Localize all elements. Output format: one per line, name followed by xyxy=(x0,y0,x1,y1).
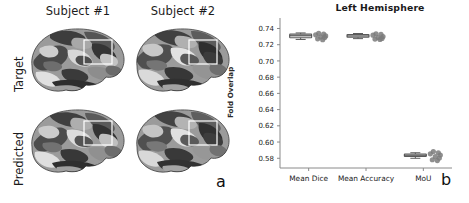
brain-surface-icon xyxy=(22,101,130,183)
y-tick-label: 0.74 xyxy=(258,25,274,33)
brain-image-predicted-subject-2 xyxy=(127,101,235,183)
brain-image-predicted-subject-1 xyxy=(22,101,130,183)
boxplot-canvas: 0.580.600.620.640.660.680.700.720.74Mean… xyxy=(240,0,469,203)
boxplot-group xyxy=(404,149,443,163)
boxplot-group xyxy=(347,31,386,42)
data-point xyxy=(377,37,382,42)
brain-surface-icon xyxy=(22,20,130,102)
brain-image-target-subject-2 xyxy=(127,20,235,102)
panel-label-a: a xyxy=(216,172,226,191)
x-tick-label: Mean Dice xyxy=(289,174,328,183)
y-tick-label: 0.60 xyxy=(258,139,274,147)
figure-root: Subject #1 Subject #2 Target Predicted xyxy=(0,0,469,203)
data-point xyxy=(435,158,440,163)
brain-image-target-subject-1 xyxy=(22,20,130,102)
data-point xyxy=(430,157,435,162)
y-tick-label: 0.68 xyxy=(258,74,274,82)
y-tick-label: 0.72 xyxy=(258,41,274,49)
x-tick-label: Mean Accuracy xyxy=(338,174,395,183)
axis-spines xyxy=(280,18,452,168)
y-tick-label: 0.64 xyxy=(258,106,274,114)
y-tick-label: 0.70 xyxy=(258,58,274,66)
y-tick-label: 0.58 xyxy=(258,155,274,163)
data-point xyxy=(315,36,320,41)
brain-surface-icon xyxy=(127,101,235,183)
data-point xyxy=(320,37,325,42)
y-axis-label: Fold Overlap xyxy=(226,67,235,118)
boxplot-group xyxy=(290,31,329,43)
panel-b-boxplot: Left Hemisphere Fold Overlap 0.580.600.6… xyxy=(240,0,469,203)
column-header-subject-1: Subject #1 xyxy=(24,4,132,18)
panel-a-brain-grid: Subject #1 Subject #2 Target Predicted xyxy=(0,0,240,203)
panel-label-b: b xyxy=(441,170,451,189)
data-point xyxy=(428,151,433,156)
y-tick-label: 0.62 xyxy=(258,122,274,130)
y-tick-label: 0.66 xyxy=(258,90,274,98)
brain-surface-icon xyxy=(127,20,235,102)
column-header-subject-2: Subject #2 xyxy=(129,4,237,18)
x-tick-label: MoU xyxy=(415,174,431,183)
data-point xyxy=(372,36,377,41)
